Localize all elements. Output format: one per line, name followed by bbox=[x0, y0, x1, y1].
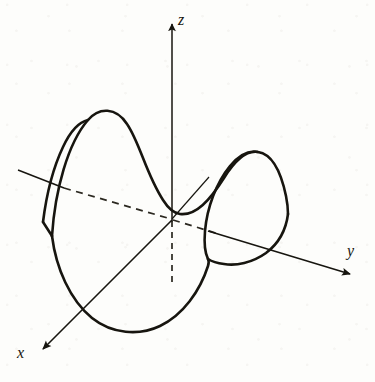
surface-right-lobe bbox=[208, 214, 288, 265]
saddle-surface-diagram bbox=[0, 0, 375, 382]
y-axis-label: y bbox=[347, 243, 354, 259]
y-axis-negative-hidden-dashed bbox=[64, 188, 171, 219]
figure-canvas: z y x bbox=[0, 0, 375, 382]
surface-group bbox=[43, 111, 288, 332]
z-axis-label: z bbox=[178, 12, 184, 28]
axis-group bbox=[18, 24, 350, 349]
y-axis-negative-solid bbox=[18, 170, 64, 188]
surface-back-rim bbox=[52, 111, 288, 236]
surface-left-kink bbox=[43, 222, 52, 236]
x-axis-label: x bbox=[17, 345, 24, 361]
surface-left-edge bbox=[43, 120, 88, 222]
surface-front-rim bbox=[52, 236, 209, 332]
